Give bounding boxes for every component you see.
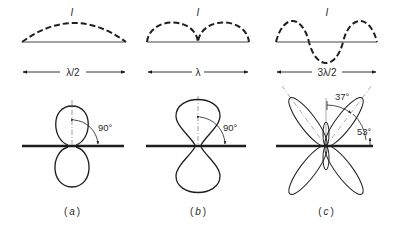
angle-arc-a <box>74 120 98 144</box>
angle-label-37: 37° <box>335 91 350 102</box>
caption-b: (b) <box>190 206 206 217</box>
caption-c: (c) <box>318 206 334 217</box>
panel-c: I 3λ/2 37° 53° (c) <box>276 7 377 217</box>
length-label-a: λ/2 <box>66 67 80 78</box>
current-label-c: I <box>326 7 329 18</box>
current-label-a: I <box>71 7 74 18</box>
panel-a: I λ/2 90° (a) <box>22 7 126 217</box>
current-distribution-b <box>147 23 249 43</box>
length-label-b: λ <box>196 67 201 78</box>
angle-label-b: 90° <box>223 122 238 133</box>
minor-lobe-bottom <box>323 146 329 170</box>
current-label-b: I <box>197 7 200 18</box>
current-distribution-a <box>22 23 126 42</box>
caption-a: (a) <box>64 206 80 217</box>
lobe-bottom-a <box>55 147 89 187</box>
lobe-bottom-b <box>176 147 220 193</box>
antenna-pattern-diagram: I λ/2 90° (a) I λ 90° (b) I <box>0 0 396 227</box>
angle-label-a: 90° <box>98 122 113 133</box>
panel-b: I λ 90° (b) <box>146 7 249 217</box>
lobe-axis-guide-left <box>282 86 326 146</box>
length-label-c: 3λ/2 <box>318 67 337 78</box>
angle-label-53: 53° <box>357 126 372 137</box>
